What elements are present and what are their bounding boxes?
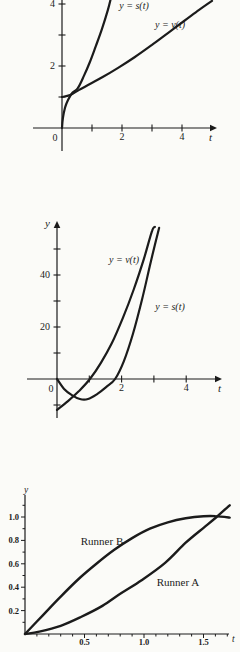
chart-bottom-two-runners: 0.51.01.50.20.40.60.81.0tyRunner BRunner… [0, 480, 240, 652]
y-axis-label: y [44, 217, 50, 229]
curve-y-v-t [57, 227, 155, 410]
origin-label: 0 [53, 132, 58, 143]
x-tick-label: 4 [184, 382, 189, 393]
y-tick-label: 1.0 [8, 512, 19, 522]
curve-label-y-v-t: y = v(t) [154, 19, 186, 31]
y-tick-label: 20 [40, 321, 50, 332]
x-tick-label: 2 [120, 131, 125, 142]
curve-label-runner-b: Runner B [81, 535, 123, 547]
chart-top-canvas: 24240ty = s(t)y = v(t) [0, 0, 240, 162]
curve-label-y-s-t: y = s(t) [154, 301, 185, 313]
x-axis-label: t [232, 634, 235, 644]
x-tick-label: 1.5 [198, 637, 209, 647]
x-tick-label: 2 [119, 382, 124, 393]
curve-runner-b [25, 516, 230, 634]
y-tick-label: 2 [50, 60, 55, 71]
x-tick-label: 1.0 [139, 637, 150, 647]
y-axis-label: y [23, 485, 29, 495]
x-tick-label: 4 [180, 131, 185, 142]
curve-y-s-t [62, 0, 111, 128]
curve-label-y-v-t: y = v(t) [108, 254, 140, 266]
x-tick-label: 0.5 [79, 637, 90, 647]
chart-top-position-velocity: 24240ty = s(t)y = v(t) [0, 0, 240, 162]
y-tick-label: 0.6 [8, 559, 19, 569]
curve-label-runner-a: Runner A [157, 576, 200, 588]
y-axis-arrow-icon [54, 221, 61, 228]
y-tick-label: 0.2 [8, 606, 19, 616]
y-tick-label: 0.8 [8, 535, 19, 545]
chart-middle-position-velocity: 2420400tyy = v(t)y = s(t) [0, 180, 240, 425]
curve-y-v-t [62, 1, 212, 97]
y-tick-label: 0.4 [8, 582, 19, 592]
curve-runner-a [25, 505, 230, 634]
y-tick-label: 40 [40, 269, 50, 280]
x-axis-label: t [209, 131, 213, 143]
origin-label: 0 [49, 383, 54, 394]
x-axis-label: t [218, 382, 222, 394]
curve-label-y-s-t: y = s(t) [118, 0, 149, 12]
chart-middle-canvas: 2420400tyy = v(t)y = s(t) [0, 180, 240, 425]
textbook-figure-column: 24240ty = s(t)y = v(t) 2420400tyy = v(t)… [0, 0, 240, 652]
chart-bottom-canvas: 0.51.01.50.20.40.60.81.0tyRunner BRunner… [0, 480, 240, 652]
y-tick-label: 4 [50, 0, 55, 9]
